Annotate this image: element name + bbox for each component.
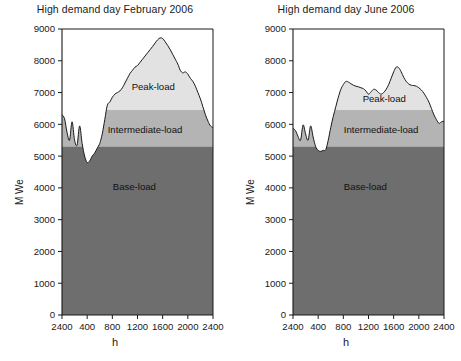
x-tick-label-february: 2400	[51, 321, 72, 332]
x-tick-label-june: 2400	[433, 321, 454, 332]
y-tick-label-june: 4000	[265, 182, 286, 193]
y-tick-label-february: 3000	[34, 214, 55, 225]
chart-plot-june: 0100020003000400050006000700080009000240…	[231, 0, 461, 361]
x-tick-label-june: 2000	[408, 321, 429, 332]
y-tick-label-june: 8000	[265, 55, 286, 66]
x-tick-label-february: 1600	[152, 321, 173, 332]
y-tick-label-february: 1000	[34, 278, 55, 289]
y-tick-label-june: 1000	[265, 278, 286, 289]
y-tick-label-june: 0	[281, 309, 286, 320]
y-tick-label-february: 4000	[34, 182, 55, 193]
y-tick-label-february: 5000	[34, 151, 55, 162]
y-tick-label-february: 7000	[34, 87, 55, 98]
x-tick-label-june: 400	[310, 321, 326, 332]
y-tick-label-february: 9000	[34, 23, 55, 34]
x-tick-label-february: 2400	[202, 321, 223, 332]
y-tick-label-june: 5000	[265, 151, 286, 162]
chart-panel-june: High demand day June 2006 M We h 0100020…	[231, 0, 461, 361]
band-annotation-june: Peak-load	[363, 93, 406, 104]
band-annotation-february: Base-load	[113, 181, 156, 192]
band-peak-load-february	[62, 29, 213, 110]
band-annotation-february: Intermediate-load	[108, 124, 183, 135]
x-tick-label-february: 400	[79, 321, 95, 332]
y-tick-label-june: 9000	[265, 23, 286, 34]
chart-panel-february: High demand day February 2006 M We h 010…	[0, 0, 230, 361]
y-tick-label-february: 2000	[34, 246, 55, 257]
y-tick-label-june: 3000	[265, 214, 286, 225]
x-tick-label-june: 2400	[282, 321, 303, 332]
figure-container: High demand day February 2006 M We h 010…	[0, 0, 461, 361]
band-annotation-june: Base-load	[344, 181, 387, 192]
band-annotation-june: Intermediate-load	[344, 124, 419, 135]
x-tick-label-february: 800	[104, 321, 120, 332]
x-tick-label-february: 2000	[177, 321, 198, 332]
y-tick-label-february: 6000	[34, 119, 55, 130]
y-tick-label-june: 7000	[265, 87, 286, 98]
band-base-load-june	[293, 147, 444, 315]
chart-plot-february: 0100020003000400050006000700080009000240…	[0, 0, 230, 361]
y-tick-label-june: 2000	[265, 246, 286, 257]
y-tick-label-february: 0	[50, 309, 55, 320]
x-tick-label-june: 1200	[358, 321, 379, 332]
x-tick-label-june: 800	[335, 321, 351, 332]
x-tick-label-june: 1600	[383, 321, 404, 332]
band-annotation-february: Peak-load	[132, 81, 175, 92]
x-tick-label-february: 1200	[127, 321, 148, 332]
band-base-load-february	[62, 147, 213, 315]
y-tick-label-february: 8000	[34, 55, 55, 66]
y-tick-label-june: 6000	[265, 119, 286, 130]
